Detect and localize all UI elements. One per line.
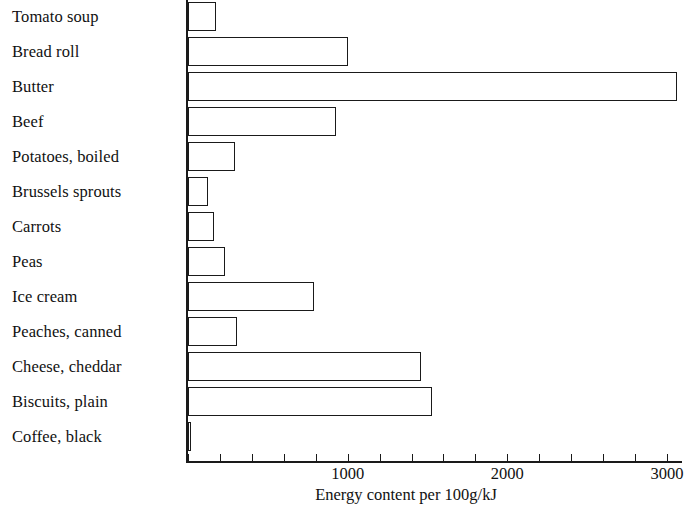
bar bbox=[188, 212, 214, 241]
bar bbox=[188, 2, 216, 31]
x-axis-tick-label: 3000 bbox=[651, 466, 684, 483]
x-axis-line bbox=[186, 461, 682, 463]
bar bbox=[188, 72, 677, 101]
category-label: Brussels sprouts bbox=[12, 184, 184, 201]
y-axis-line bbox=[186, 0, 188, 462]
category-label: Bread roll bbox=[12, 44, 184, 61]
bar bbox=[188, 422, 191, 451]
bar bbox=[188, 142, 235, 171]
category-label: Peaches, canned bbox=[12, 324, 184, 341]
bar bbox=[188, 317, 237, 346]
bar bbox=[188, 282, 314, 311]
category-label: Tomato soup bbox=[12, 9, 184, 26]
x-axis-tick-label: 1000 bbox=[331, 466, 364, 483]
bar bbox=[188, 247, 225, 276]
x-axis-title: Energy content per 100g/kJ bbox=[0, 487, 682, 504]
x-axis-minor-tick bbox=[252, 454, 253, 462]
category-label: Peas bbox=[12, 254, 184, 271]
x-axis-minor-tick bbox=[475, 454, 476, 462]
bar bbox=[188, 352, 421, 381]
category-label: Ice cream bbox=[12, 289, 184, 306]
category-axis-labels: Tomato soupBread rollButterBeefPotatoes,… bbox=[0, 0, 184, 458]
bar bbox=[188, 177, 208, 206]
category-label: Beef bbox=[12, 114, 184, 131]
x-axis-major-tick bbox=[507, 454, 508, 463]
plot-area bbox=[188, 0, 682, 458]
category-label: Cheese, cheddar bbox=[12, 359, 184, 376]
bar bbox=[188, 107, 336, 136]
category-label: Potatoes, boiled bbox=[12, 149, 184, 166]
x-axis-minor-tick bbox=[316, 454, 317, 462]
x-axis-major-tick bbox=[348, 454, 349, 463]
x-axis-minor-tick bbox=[603, 454, 604, 462]
x-axis-minor-tick bbox=[539, 454, 540, 462]
x-axis-major-tick bbox=[667, 454, 668, 463]
x-axis-tick-label: 2000 bbox=[491, 466, 524, 483]
category-label: Butter bbox=[12, 79, 184, 96]
x-axis-major-tick bbox=[188, 454, 189, 463]
x-axis-minor-tick bbox=[443, 454, 444, 462]
bar bbox=[188, 37, 348, 66]
x-axis-minor-tick bbox=[284, 454, 285, 462]
category-label: Carrots bbox=[12, 219, 184, 236]
x-axis-minor-tick bbox=[220, 454, 221, 462]
bar bbox=[188, 387, 432, 416]
category-label: Biscuits, plain bbox=[12, 394, 184, 411]
x-axis-minor-tick bbox=[571, 454, 572, 462]
x-axis-minor-tick bbox=[635, 454, 636, 462]
x-axis-minor-tick bbox=[380, 454, 381, 462]
x-axis-minor-tick bbox=[412, 454, 413, 462]
category-label: Coffee, black bbox=[12, 429, 184, 446]
